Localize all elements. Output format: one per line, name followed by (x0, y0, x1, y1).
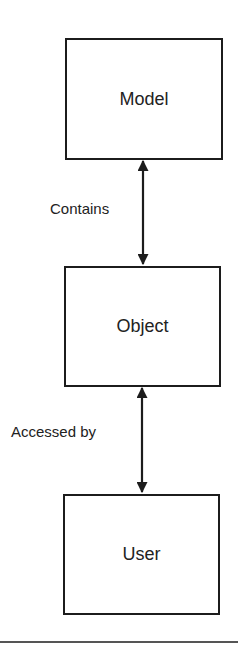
edge-label-accessed-by: Accessed by (11, 423, 96, 440)
edge-label-contains: Contains (50, 200, 109, 217)
node-user: User (63, 494, 220, 615)
node-object-label: Object (116, 316, 168, 337)
node-model: Model (65, 38, 223, 160)
node-object: Object (64, 266, 221, 387)
node-user-label: User (122, 544, 160, 565)
bottom-divider (0, 641, 238, 643)
node-model-label: Model (119, 89, 168, 110)
